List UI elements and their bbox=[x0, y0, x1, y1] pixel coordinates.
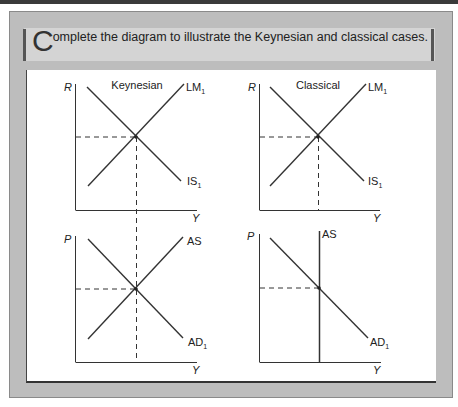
y-axis-label: Y bbox=[192, 364, 200, 376]
equilibrium-point bbox=[316, 135, 320, 139]
classical-islm-graph bbox=[260, 84, 381, 211]
r-axis-label: R bbox=[248, 81, 256, 93]
lm-curve bbox=[88, 84, 184, 186]
as-label: AS bbox=[322, 228, 337, 240]
p-axis-label: P bbox=[64, 233, 72, 245]
lm-curve bbox=[270, 84, 366, 186]
lm1-label: LM1 bbox=[368, 81, 387, 95]
p-axis-label: P bbox=[247, 230, 255, 242]
as-label: AS bbox=[187, 235, 202, 247]
is1-label: IS1 bbox=[368, 175, 382, 189]
y-axis-label: Y bbox=[373, 212, 381, 224]
diagram-graphs: R Y Keynesian LM1 IS1 R Y Classical LM1 … bbox=[0, 0, 458, 407]
equilibrium-point bbox=[317, 286, 321, 290]
lm1-label: LM1 bbox=[186, 81, 205, 95]
classical-title: Classical bbox=[296, 79, 340, 91]
is-curve bbox=[87, 87, 181, 181]
y-axis-label: Y bbox=[373, 364, 381, 376]
classical-asad-graph bbox=[260, 231, 382, 363]
keynesian-asad-graph bbox=[76, 137, 198, 363]
is1-label: IS1 bbox=[187, 175, 201, 189]
y-axis-label: Y bbox=[192, 212, 200, 224]
ad1-label: AD1 bbox=[188, 336, 207, 350]
ad1-label: AD1 bbox=[370, 336, 389, 350]
r-axis-label: R bbox=[64, 81, 72, 93]
keynesian-title: Keynesian bbox=[111, 79, 162, 91]
equilibrium-point bbox=[134, 287, 138, 291]
